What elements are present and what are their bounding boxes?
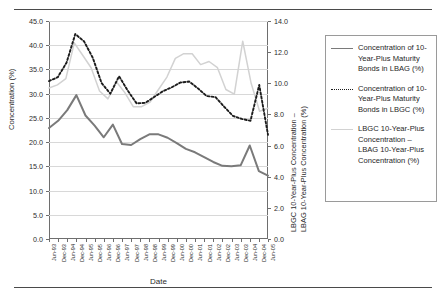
legend-swatch-light-line [331,125,353,135]
x-tick-label: Jun-97 [124,244,130,261]
legend-item-lbgc: Concentration of 10-Year-Plus Maturity B… [331,84,431,116]
x-tick-label: Dec-02 [225,244,231,262]
y2-tick-label: 12.0 [274,48,288,57]
x-tick-label: Jun-95 [88,244,94,261]
x-tick-label: Jun-93 [51,244,57,261]
y-tick-label: 5.0 [33,210,43,219]
top-divider-rule [14,9,432,10]
y2-tick [268,146,271,147]
x-tick-label: Dec-95 [97,244,103,262]
y2-axis-title-line1: LBGC 10-Year-Plus Concentration – [289,113,298,232]
legend-label-lbag: Concentration of 10-Year-Plus Maturity B… [358,43,431,75]
x-tick [213,239,214,242]
y2-tick [268,208,271,209]
x-tick [195,239,196,242]
x-tick [67,239,68,242]
figure-container: Concentration (%) LBGC 10-Year-Plus Conc… [0,0,446,301]
y2-tick [268,52,271,53]
x-tick [250,239,251,242]
y2-tick-label: 4.0 [274,172,284,181]
x-tick [241,239,242,242]
y-tick-label: 40.0 [29,41,43,50]
x-tick [268,239,269,242]
y2-tick-label: 8.0 [274,110,284,119]
y2-tick-label: 2.0 [274,203,284,212]
x-tick [204,239,205,242]
x-tick-label: Dec-03 [243,244,249,262]
x-tick [131,239,132,242]
x-tick-label: Jun-02 [216,244,222,261]
series-line [49,41,268,111]
x-tick [177,239,178,242]
x-tick [149,239,150,242]
x-tick-label: Dec-00 [188,244,194,262]
legend-swatch-dotted-line [331,85,353,95]
x-tick [168,239,169,242]
x-tick-label: Dec-04 [261,244,267,262]
x-tick-label: Dec-93 [61,244,67,262]
y2-axis-title-line2: LBAG 10-Year-Plus Concentration (%) [299,106,308,232]
data-series-layer [49,21,268,239]
x-tick-label: Dec-01 [207,244,213,262]
y-tick-label: 25.0 [29,113,43,122]
x-tick [76,239,77,242]
y2-tick-label: 6.0 [274,141,284,150]
plot-area: 0.05.010.015.020.025.030.035.040.045.0 0… [49,21,268,239]
series-line [49,95,268,175]
y-tick-label: 15.0 [29,162,43,171]
x-tick-label: Dec-94 [79,244,85,262]
x-tick-label: Jun-00 [179,244,185,261]
y2-tick-label: 0.0 [274,235,284,244]
x-tick [86,239,87,242]
y-axis-title: Concentration (%) [7,69,16,130]
x-tick [186,239,187,242]
x-tick-label: Jun-94 [70,244,76,261]
x-tick-label: Jun-99 [161,244,167,261]
y-tick-label: 45.0 [29,17,43,26]
x-axis-title: Date [49,277,268,286]
x-tick-label: Jun-98 [143,244,149,261]
x-tick-label: Jun-96 [106,244,112,261]
legend-label-lbgc: Concentration of 10-Year-Plus Maturity B… [358,84,431,116]
chart-legend: Concentration of 10-Year-Plus Maturity B… [325,35,437,202]
x-tick [58,239,59,242]
x-tick-label: Dec-97 [134,244,140,262]
x-tick [222,239,223,242]
x-tick-label: Dec-98 [152,244,158,262]
legend-swatch-solid-line [331,44,353,54]
y2-tick [268,83,271,84]
x-tick-label: Jun-04 [252,244,258,261]
y2-tick [268,21,271,22]
x-tick-label: Dec-96 [115,244,121,262]
x-tick [232,239,233,242]
x-tick [104,239,105,242]
x-tick [159,239,160,242]
x-tick [140,239,141,242]
y2-tick-label: 10.0 [274,79,288,88]
bottom-divider-rule [14,287,432,288]
y2-tick [268,177,271,178]
x-tick-label: Jun-03 [234,244,240,261]
legend-label-difference: LBGC 10-Year-Plus Concentration – LBAG 1… [358,124,431,166]
y-tick-label: 10.0 [29,186,43,195]
x-tick-label: Jun-01 [197,244,203,261]
legend-item-difference: LBGC 10-Year-Plus Concentration – LBAG 1… [331,124,431,166]
x-tick [259,239,260,242]
x-tick-label: Dec-99 [170,244,176,262]
y-tick-label: 20.0 [29,138,43,147]
y-tick-label: 0.0 [33,235,43,244]
x-tick-label: Jun-05 [270,244,276,261]
y2-tick [268,114,271,115]
x-tick [49,239,50,242]
y2-tick-label: 14.0 [274,17,288,26]
y-tick-label: 30.0 [29,89,43,98]
x-tick [95,239,96,242]
x-tick [122,239,123,242]
legend-item-lbag: Concentration of 10-Year-Plus Maturity B… [331,43,431,75]
x-tick [113,239,114,242]
y-tick-label: 35.0 [29,65,43,74]
